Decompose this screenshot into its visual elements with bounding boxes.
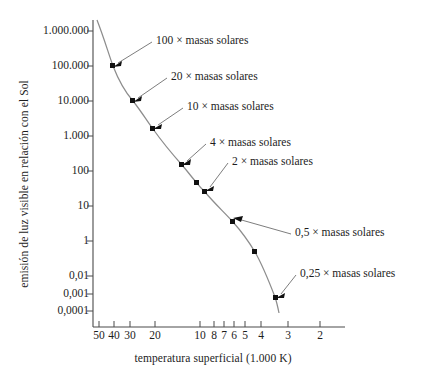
y-axis-ticks: [87, 31, 93, 311]
annotation-20-solar-masses: 20 × masas solares: [171, 70, 258, 82]
x-axis-ticks: [99, 321, 320, 327]
annotation-2-solar-masses: 2 × masas solares: [232, 155, 313, 167]
data-point: [230, 219, 235, 224]
data-point: [130, 98, 135, 103]
chart-figure: emisión de luz visible en relación con e…: [0, 0, 426, 379]
data-point: [252, 249, 257, 254]
plot-area: [0, 0, 426, 379]
annotation-0_25-solar-masses: 0,25 × masas solares: [300, 267, 395, 279]
data-point: [110, 63, 115, 68]
annotation-100-solar-masses: 100 × masas solares: [156, 34, 248, 46]
data-point: [202, 189, 207, 194]
annotation-4-solar-masses: 4 × masas solares: [210, 136, 291, 148]
annotation-0_5-solar-masses: 0,5 × masas solares: [295, 226, 385, 238]
data-point: [194, 180, 199, 185]
annotation-10-solar-masses: 10 × masas solares: [187, 100, 274, 112]
axis-lines: [93, 20, 345, 327]
data-point-markers: [110, 63, 278, 300]
